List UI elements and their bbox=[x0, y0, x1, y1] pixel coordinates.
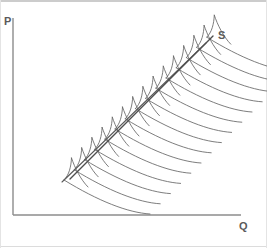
firm-supply-curve bbox=[95, 149, 181, 183]
firm-supply-curve bbox=[197, 47, 267, 81]
firm-supply-curve-spike bbox=[105, 117, 113, 139]
y-axis-label-price: P bbox=[4, 16, 12, 27]
firm-supply-curve-spike bbox=[197, 25, 205, 47]
firm-supply-curve bbox=[64, 180, 150, 214]
firm-supply-curve bbox=[176, 68, 262, 102]
supply-curve-label: S bbox=[218, 30, 226, 41]
firm-supply-curve bbox=[115, 129, 201, 163]
firm-supply-curve-spike bbox=[95, 127, 103, 149]
firm-supply-curve-descent bbox=[102, 127, 119, 156]
firm-supply-curve-descent bbox=[82, 148, 99, 177]
firm-supply-curve bbox=[166, 78, 252, 112]
firm-supply-curve-spike bbox=[186, 36, 194, 58]
firm-supply-curve-descent bbox=[184, 46, 201, 75]
firm-supply-curve bbox=[135, 109, 221, 143]
firm-supply-curve bbox=[186, 58, 267, 92]
firm-supply-curves-group bbox=[64, 15, 267, 214]
supply-diagram-figure: P S Q bbox=[0, 0, 267, 248]
diagram-canvas bbox=[0, 0, 267, 248]
firm-supply-curve bbox=[207, 37, 267, 71]
firm-supply-curve-descent bbox=[194, 36, 211, 65]
x-axis-label-quantity: Q bbox=[239, 221, 248, 232]
firm-supply-curve bbox=[156, 88, 242, 122]
firm-supply-curve-spike bbox=[176, 46, 184, 68]
firm-supply-curve-descent bbox=[72, 158, 89, 187]
firm-supply-curve-descent bbox=[92, 138, 109, 167]
firm-supply-curve bbox=[125, 119, 211, 153]
firm-supply-curve bbox=[84, 160, 170, 194]
firm-supply-curve bbox=[105, 139, 191, 173]
firm-supply-curve bbox=[146, 98, 232, 132]
firm-supply-curve-spike bbox=[115, 107, 123, 129]
firm-supply-curve-spike bbox=[207, 15, 215, 37]
firm-supply-curve bbox=[74, 170, 160, 204]
